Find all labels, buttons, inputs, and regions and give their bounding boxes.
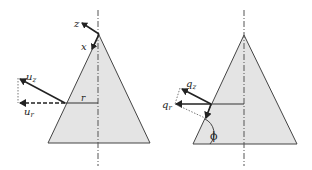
- label-q-z: qz: [186, 78, 196, 91]
- label-u-r: ur: [24, 106, 34, 119]
- z-arrow: [82, 23, 99, 34]
- right-cone: [193, 35, 297, 144]
- label-u-z: uz: [26, 71, 36, 84]
- left-cone: [48, 35, 150, 143]
- label-phi: ϕ: [210, 130, 218, 143]
- right-panel: qz qr ϕ: [162, 10, 297, 166]
- q-projection-dotted-2: [175, 104, 205, 118]
- label-r: r: [81, 93, 86, 103]
- label-q-r: qr: [162, 99, 172, 112]
- cone-diagram: z x uz ur r qz qr ϕ: [0, 0, 312, 170]
- q-z-arrow: [182, 89, 211, 104]
- left-panel: z x uz ur r: [18, 10, 150, 166]
- q-projection-dotted-1: [175, 88, 180, 104]
- label-x: x: [81, 41, 87, 52]
- u-z-arrow: [20, 79, 65, 103]
- label-z: z: [73, 18, 80, 29]
